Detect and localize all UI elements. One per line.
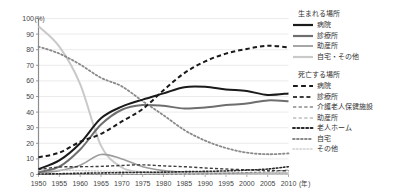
legend-item[interactable]: 病院 — [292, 20, 406, 31]
x-tick-label-1970: 1970 — [114, 180, 130, 187]
x-tick-label-1985: 1985 — [177, 180, 193, 187]
y-tick-label-90: 90 — [26, 31, 34, 38]
x-tick-label-1975: 1975 — [135, 180, 151, 187]
y-tick-label-70: 70 — [26, 62, 34, 69]
legend-item-label: 病院 — [317, 81, 331, 91]
legend-item-label: 診療所 — [317, 31, 338, 41]
y-tick-label-20: 20 — [26, 140, 34, 147]
legend-line-swatch-icon — [292, 92, 314, 102]
series-line-3 — [39, 26, 289, 174]
y-tick-label-100: 100 — [22, 15, 34, 22]
legend-item-label: 老人ホーム — [317, 123, 352, 133]
legend-item-label: 介護老人保健施設 — [317, 102, 373, 112]
legend-item-label: 自宅・その他 — [317, 52, 359, 62]
legend-line-swatch-icon — [292, 134, 314, 144]
legend-line-swatch-icon — [292, 123, 314, 133]
y-tick-label-0: 0 — [30, 171, 34, 178]
y-tick-label-40: 40 — [26, 109, 34, 116]
legend-group-2: 死亡する場所病院診療所介護老人保健施設助産所老人ホーム自宅その他 — [292, 69, 406, 155]
legend-item[interactable]: 診療所 — [292, 92, 406, 103]
legend-item-label: 助産所 — [317, 113, 338, 123]
legend-group-title: 生まれる場所 — [298, 8, 406, 18]
x-tick-label-1995: 1995 — [218, 180, 234, 187]
x-tick-label-1950: 1950 — [31, 180, 47, 187]
legend-line-swatch-icon — [292, 113, 314, 123]
grid-lines — [39, 19, 289, 175]
y-tick-label-10: 10 — [26, 155, 34, 162]
legend-item-label: 診療所 — [317, 92, 338, 102]
legend-line-swatch-icon — [292, 31, 314, 41]
legend-item[interactable]: その他 — [292, 144, 406, 155]
x-tick-label-1990: 1990 — [197, 180, 213, 187]
x-axis-ticks: 1950195519601965197019751980198519901995… — [31, 175, 311, 188]
y-tick-label-80: 80 — [26, 46, 34, 53]
chart-legend: 生まれる場所病院診療所助産所自宅・その他死亡する場所病院診療所介護老人保健施設助… — [292, 8, 406, 160]
x-tick-label-2005: 2005 — [260, 180, 276, 187]
x-axis-unit-label: (年) — [299, 179, 310, 188]
legend-item-label: 助産所 — [317, 41, 338, 51]
series-line-9 — [39, 47, 289, 155]
legend-item-label: 自宅 — [317, 134, 331, 144]
x-tick-label-1965: 1965 — [93, 180, 109, 187]
legend-line-swatch-icon — [292, 144, 314, 154]
y-tick-label-60: 60 — [26, 77, 34, 84]
legend-group-title: 死亡する場所 — [298, 69, 406, 79]
chart-container: 0102030405060708090100(%)195019551960196… — [0, 0, 406, 196]
x-tick-label-1980: 1980 — [156, 180, 172, 187]
legend-line-swatch-icon — [292, 41, 314, 51]
series-lines — [39, 26, 289, 174]
y-tick-label-50: 50 — [26, 93, 34, 100]
legend-item-label: その他 — [317, 144, 338, 154]
legend-item[interactable]: 病院 — [292, 81, 406, 92]
x-tick-label-1960: 1960 — [72, 180, 88, 187]
y-tick-label-30: 30 — [26, 124, 34, 131]
legend-item[interactable]: 自宅・その他 — [292, 52, 406, 63]
x-tick-label-2000: 2000 — [239, 180, 255, 187]
legend-line-swatch-icon — [292, 81, 314, 91]
legend-item[interactable]: 老人ホーム — [292, 123, 406, 134]
legend-item[interactable]: 介護老人保健施設 — [292, 102, 406, 113]
legend-line-swatch-icon — [292, 20, 314, 30]
legend-line-swatch-icon — [292, 52, 314, 62]
x-tick-label-1955: 1955 — [52, 180, 68, 187]
x-tick-label-2010: 2010 — [281, 180, 297, 187]
y-axis-unit-label: (%) — [35, 15, 45, 23]
legend-group-1: 生まれる場所病院診療所助産所自宅・その他 — [292, 8, 406, 62]
legend-line-swatch-icon — [292, 102, 314, 112]
legend-item-label: 病院 — [317, 20, 331, 30]
legend-item[interactable]: 助産所 — [292, 113, 406, 124]
legend-item[interactable]: 診療所 — [292, 31, 406, 42]
legend-item[interactable]: 自宅 — [292, 134, 406, 145]
series-line-1 — [39, 100, 289, 172]
legend-item[interactable]: 助産所 — [292, 41, 406, 52]
